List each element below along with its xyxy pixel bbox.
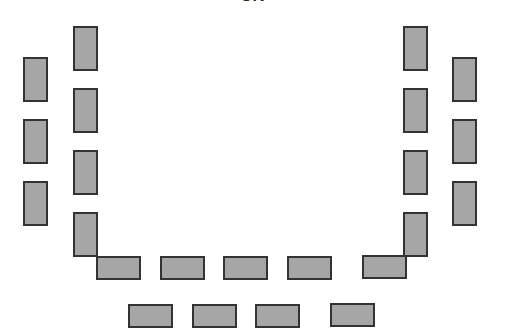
desk-front-inner-5	[362, 255, 407, 279]
seating-diagram: SK	[0, 0, 506, 333]
desk-front-inner-3	[223, 256, 268, 280]
desk-left-outer-3	[23, 181, 48, 226]
desk-right-inner-4	[403, 212, 428, 257]
desk-left-outer-2	[23, 119, 48, 164]
desk-front-inner-1	[96, 256, 141, 280]
desk-right-outer-2	[452, 119, 477, 164]
desk-front-inner-2	[160, 256, 205, 280]
desk-back-row-2	[192, 304, 237, 328]
desk-left-inner-2	[73, 88, 98, 133]
desk-back-row-1	[128, 304, 173, 328]
desk-right-outer-1	[452, 57, 477, 102]
desk-right-inner-1	[403, 26, 428, 71]
desk-right-inner-2	[403, 88, 428, 133]
desk-left-outer-1	[23, 57, 48, 102]
desk-right-outer-3	[452, 181, 477, 226]
desk-right-inner-3	[403, 150, 428, 195]
desk-back-row-4	[330, 303, 375, 327]
desk-left-inner-3	[73, 150, 98, 195]
desk-back-row-3	[255, 304, 300, 328]
desk-left-inner-4	[73, 212, 98, 257]
desk-left-inner-1	[73, 26, 98, 71]
diagram-title-fragment: SK	[0, 0, 506, 5]
desk-front-inner-4	[287, 256, 332, 280]
